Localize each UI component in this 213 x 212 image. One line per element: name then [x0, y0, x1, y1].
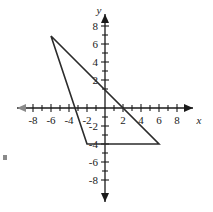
- y-tick-label: -6: [89, 156, 99, 168]
- x-tick-label: -6: [46, 114, 56, 126]
- x-tick-label: -8: [28, 114, 38, 126]
- coordinate-plane-figure: -8 -6 -4 -2 2 4 6 8 8 6 4 2 -2 -4 -6 -8 …: [0, 0, 213, 212]
- x-axis-left-arrow: [17, 104, 26, 112]
- y-axis-bottom-arrow: [101, 193, 109, 202]
- axes-group: [17, 14, 193, 202]
- margin-speck: [3, 155, 7, 160]
- x-axis-right-arrow: [184, 104, 193, 112]
- x-axis-tick-labels: -8 -6 -4 -2 2 4 6 8: [28, 114, 180, 126]
- x-tick-label: 8: [174, 114, 180, 126]
- x-tick-label: 2: [120, 114, 126, 126]
- y-axis-top-arrow: [101, 14, 109, 23]
- y-axis-label: y: [96, 4, 102, 16]
- y-tick-label: -2: [89, 120, 98, 132]
- y-tick-label: 8: [93, 20, 99, 32]
- x-axis-label: x: [196, 114, 202, 126]
- x-tick-label: 6: [156, 114, 162, 126]
- y-axis-tick-labels: 8 6 4 2 -2 -4 -6 -8: [89, 20, 99, 186]
- y-tick-label: 6: [93, 38, 99, 50]
- y-tick-label: 4: [93, 56, 99, 68]
- y-tick-label: -8: [89, 174, 99, 186]
- x-tick-label: -4: [64, 114, 74, 126]
